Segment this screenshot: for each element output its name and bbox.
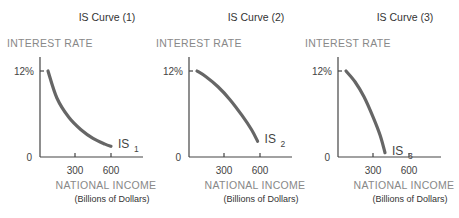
panel-3-is-curve-line — [346, 71, 385, 153]
panel-2-origin-label: 0 — [175, 152, 181, 163]
panel-3-chart-title: IS Curve (3) — [377, 11, 434, 23]
panel-3-x-tick-label-600: 600 — [401, 165, 418, 176]
panel-1-series-label: IS — [118, 137, 129, 151]
panel-3-origin-label: 0 — [324, 152, 330, 163]
panel-2-series-label-subscript: 2 — [281, 139, 286, 149]
panel-1-series-label-subscript: 1 — [134, 144, 139, 154]
panel-1-x-axis-label: NATIONAL INCOME — [56, 179, 157, 191]
panel-1-is-curve-line — [48, 71, 111, 146]
panel-2-is-curve-line — [197, 71, 258, 141]
panel-2-series-label: IS — [265, 132, 276, 146]
panel-3-y-tick-label: 12% — [312, 66, 332, 77]
panel-3-x-axis-label: NATIONAL INCOME — [354, 179, 455, 191]
panel-1-origin-label: 0 — [26, 152, 32, 163]
panel-3-x-axis-sublabel: (Billions of Dollars) — [372, 194, 447, 204]
panel-3-series-label-subscript: 3 — [408, 151, 413, 161]
panel-1-chart-title: IS Curve (1) — [79, 11, 136, 23]
panel-2-x-axis-label: NATIONAL INCOME — [205, 179, 306, 191]
panel-3-series-label: IS — [392, 144, 403, 158]
panel-2-chart-title: IS Curve (2) — [228, 11, 285, 23]
panel-2-x-axis-sublabel: (Billions of Dollars) — [223, 194, 298, 204]
panel-1-x-tick-label-300: 300 — [67, 165, 84, 176]
panel-1-y-tick-label: 12% — [14, 66, 34, 77]
panel-1-y-axis-label: INTEREST RATE — [7, 37, 93, 49]
panel-1-x-axis-sublabel: (Billions of Dollars) — [74, 194, 149, 204]
panel-2-y-tick-label: 12% — [163, 66, 183, 77]
panel-2-x-tick-label-600: 600 — [252, 165, 269, 176]
panel-2-y-axis-label: INTEREST RATE — [156, 37, 242, 49]
panel-1-x-tick-label-600: 600 — [103, 165, 120, 176]
is-curves-figure: IS Curve (1)INTEREST RATE12%0300600NATIO… — [0, 0, 459, 218]
panel-3-y-axis-label: INTEREST RATE — [305, 37, 391, 49]
panel-2-x-tick-label-300: 300 — [216, 165, 233, 176]
panel-3-x-tick-label-300: 300 — [365, 165, 382, 176]
